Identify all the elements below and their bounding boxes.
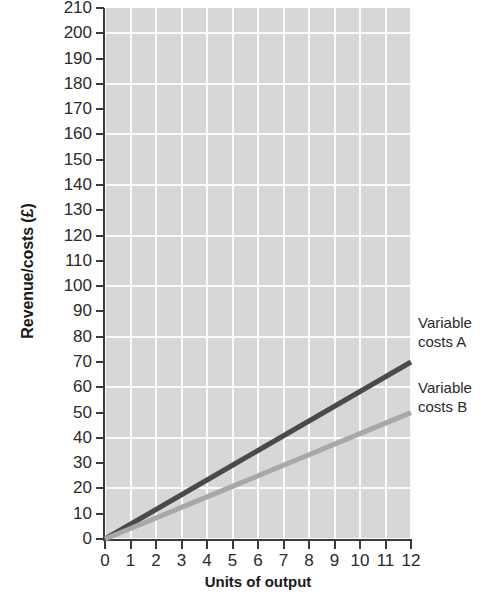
y-axis-tick-label: 140: [32, 176, 92, 193]
y-axis-tick: [96, 235, 104, 237]
y-axis-tick-label: 10: [32, 505, 92, 522]
y-axis-tick-label: 200: [32, 24, 92, 41]
x-axis-tick: [385, 541, 387, 549]
x-axis-tick: [130, 541, 132, 549]
gridline-vertical: [206, 8, 208, 539]
x-axis-tick: [410, 541, 412, 549]
y-axis-tick-label: 0: [32, 530, 92, 547]
y-axis-tick: [96, 487, 104, 489]
y-axis-tick-label: 90: [32, 302, 92, 319]
gridline-vertical: [308, 8, 310, 539]
annotation-variable-costs-a: Variable costs A: [418, 313, 490, 351]
x-axis-tick: [206, 541, 208, 549]
y-axis-tick: [96, 412, 104, 414]
y-axis-tick: [96, 108, 104, 110]
annotation-a-line1: Variable: [418, 313, 490, 332]
y-axis-tick: [96, 7, 104, 9]
y-axis-tick: [96, 260, 104, 262]
y-axis-tick-label: 190: [32, 50, 92, 67]
y-axis-tick-label: 40: [32, 429, 92, 446]
y-axis-tick: [96, 184, 104, 186]
y-axis-tick: [96, 538, 104, 540]
gridline-vertical: [181, 8, 183, 539]
x-axis-tick: [308, 541, 310, 549]
y-axis-tick: [96, 58, 104, 60]
y-axis-tick-label: 60: [32, 378, 92, 395]
y-axis-tick: [96, 437, 104, 439]
gridline-vertical: [105, 8, 106, 539]
x-axis-tick: [334, 541, 336, 549]
x-axis-tick: [104, 541, 106, 549]
y-axis-tick: [96, 159, 104, 161]
y-axis-tick: [96, 336, 104, 338]
y-axis-tick-label: 70: [32, 353, 92, 370]
y-axis-tick: [96, 209, 104, 211]
y-axis-tick-label: 100: [32, 277, 92, 294]
x-axis-tick: [181, 541, 183, 549]
y-axis-tick-label: 50: [32, 404, 92, 421]
x-axis-tick: [283, 541, 285, 549]
y-axis-tick-label: 110: [32, 252, 92, 269]
annotation-b-line1: Variable: [418, 378, 490, 397]
y-axis-tick-label: 150: [32, 151, 92, 168]
plot-area: [105, 8, 411, 539]
annotation-a-line2: costs A: [418, 332, 490, 351]
gridline-vertical: [334, 8, 336, 539]
y-axis-tick: [96, 386, 104, 388]
x-axis-tick-label: 12: [396, 551, 426, 571]
annotation-variable-costs-b: Variable costs B: [418, 378, 490, 416]
y-axis-tick-label: 80: [32, 328, 92, 345]
gridline-vertical: [155, 8, 157, 539]
x-axis-tick: [155, 541, 157, 549]
y-axis-tick-label: 120: [32, 227, 92, 244]
y-axis-tick: [96, 310, 104, 312]
annotation-b-line2: costs B: [418, 397, 490, 416]
chart-container: Revenue/costs (£) 0102030405060708090100…: [0, 0, 490, 605]
y-axis-tick-label: 210: [32, 0, 92, 16]
y-axis-tick: [96, 83, 104, 85]
y-axis-tick-label: 20: [32, 479, 92, 496]
x-axis-tick: [257, 541, 259, 549]
y-axis-tick: [96, 133, 104, 135]
gridline-vertical: [359, 8, 361, 539]
x-axis-title: Units of output: [105, 573, 411, 590]
y-axis-line: [103, 8, 105, 541]
y-axis-tick: [96, 462, 104, 464]
x-axis-tick: [359, 541, 361, 549]
y-axis-tick-label: 170: [32, 100, 92, 117]
y-axis-tick: [96, 513, 104, 515]
y-axis-tick-label: 160: [32, 125, 92, 142]
gridline-vertical: [410, 8, 411, 539]
gridline-vertical: [257, 8, 259, 539]
gridline-vertical: [283, 8, 285, 539]
gridline-vertical: [130, 8, 132, 539]
y-axis-tick-label: 30: [32, 454, 92, 471]
y-axis-tick: [96, 285, 104, 287]
x-axis-tick: [232, 541, 234, 549]
y-axis-tick: [96, 361, 104, 363]
gridline-vertical: [385, 8, 387, 539]
y-axis-tick-label: 180: [32, 75, 92, 92]
y-axis-tick: [96, 32, 104, 34]
y-axis-tick-label: 130: [32, 201, 92, 218]
gridline-vertical: [232, 8, 234, 539]
